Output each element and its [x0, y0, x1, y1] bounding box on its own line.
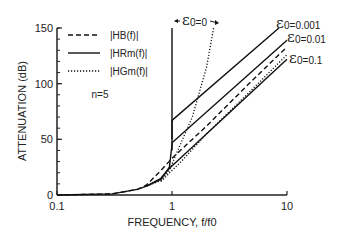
epsilon-label: ε0=0.1: [289, 49, 323, 67]
epsilon-label: ε0=0.001: [276, 14, 321, 32]
epsilon-label: ε0=0: [182, 11, 207, 29]
epsilon-symbol: ε: [276, 14, 284, 32]
series-line: [172, 28, 279, 139]
y-tick-label: 150: [35, 22, 53, 34]
legend: |HB(f)||HRm(f)||HGm(f)|: [68, 30, 148, 77]
arrowhead-right: [215, 20, 219, 25]
epsilon-value: 0=0: [190, 17, 207, 28]
epsilon-symbol: ε: [287, 28, 295, 46]
attenuation-chart: 0501001500.1110 |HB(f)||HRm(f)||HGm(f)| …: [0, 0, 342, 242]
series-line: [172, 40, 287, 150]
arrowhead-left: [174, 19, 178, 23]
y-tick-label: 100: [35, 78, 53, 90]
y-tick-label: 50: [41, 133, 53, 145]
n-order-label: n=5: [92, 89, 109, 100]
series-line: [147, 59, 288, 186]
x-axis-title: FREQUENCY, f/f0: [127, 216, 216, 228]
epsilon-value: 0=0.01: [295, 34, 326, 45]
y-axis-title: ATTENUATION (dB): [16, 61, 28, 161]
x-tick-label: 0.1: [49, 200, 64, 212]
legend-label: |HGm(f)|: [110, 66, 148, 77]
x-tick-label: 10: [281, 200, 293, 212]
x-tick-label: 1: [169, 200, 175, 212]
epsilon-value: 0=0.1: [297, 55, 323, 66]
legend-label: |HB(f)|: [110, 30, 139, 41]
epsilon-symbol: ε: [182, 11, 190, 29]
legend-label: |HRm(f)|: [110, 48, 147, 59]
axes: 0501001500.1110: [35, 22, 293, 212]
epsilon-symbol: ε: [289, 49, 297, 67]
